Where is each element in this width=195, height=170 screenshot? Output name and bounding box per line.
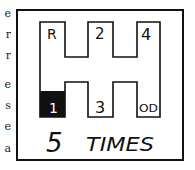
gear-label-reverse: R <box>47 26 57 42</box>
gear-label-overdrive: OD <box>139 102 158 115</box>
shift-pattern-diagram: R 2 4 1 3 OD 5 TIMES <box>0 0 195 170</box>
gear-label-third: 3 <box>95 98 105 117</box>
caption-word: TIMES <box>86 133 154 155</box>
gear-label-fourth: 4 <box>141 25 151 44</box>
caption-number: 5 <box>46 128 63 158</box>
gear-label-second: 2 <box>95 25 105 43</box>
gear-label-first: 1 <box>49 100 58 116</box>
